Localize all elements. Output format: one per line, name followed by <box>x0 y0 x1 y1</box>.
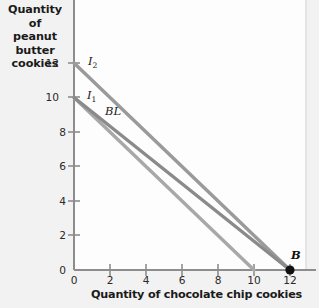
x-tick-label-12: 12 <box>278 274 302 286</box>
plot-background <box>74 0 306 270</box>
y-tick-label-10: 10 <box>35 91 59 103</box>
curve-label-i1-sub: 1 <box>92 95 97 104</box>
x-tick-label-0: 0 <box>62 274 86 286</box>
curve-label-i1: I1 <box>87 88 96 104</box>
x-tick-label-2: 2 <box>98 274 122 286</box>
x-tick-label-10: 10 <box>242 274 266 286</box>
x-axis-title: Quantity of chocolate chip cookies <box>74 288 319 301</box>
y-tick-label-6: 6 <box>42 160 66 172</box>
y-axis-title-line-1: Quantity of <box>0 3 70 30</box>
curve-label-i2-sub: 2 <box>93 61 98 70</box>
y-tick-label-8: 8 <box>42 126 66 138</box>
y-tick-label-12: 12 <box>35 57 59 69</box>
y-axis-title-line-2: peanut butter <box>0 30 70 57</box>
y-tick-label-4: 4 <box>42 195 66 207</box>
economics-indifference-curve-chart: Quantity of peanut butter cookies Quanti… <box>0 0 319 308</box>
curve-label-i2: I2 <box>88 54 97 70</box>
x-tick-label-6: 6 <box>170 274 194 286</box>
x-tick-label-4: 4 <box>134 274 158 286</box>
point-b-label: B <box>291 248 301 262</box>
y-tick-label-2: 2 <box>42 229 66 241</box>
curve-label-bl: BL <box>105 104 121 118</box>
x-tick-label-8: 8 <box>206 274 230 286</box>
